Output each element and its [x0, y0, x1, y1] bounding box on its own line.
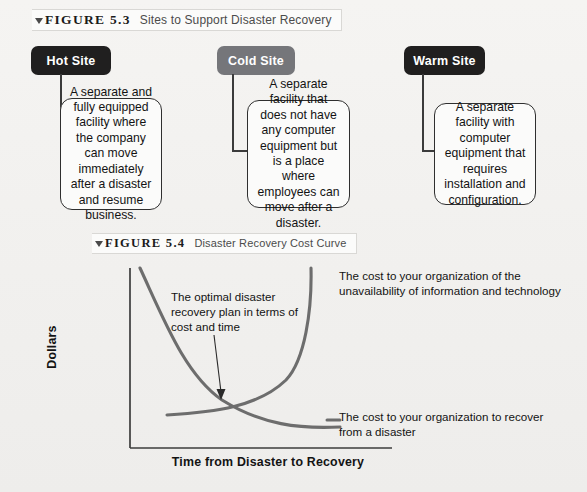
figure-5-3-number: FIGURE 5.3	[45, 12, 131, 28]
site-description-warm: A separate facility with computer equipm…	[434, 103, 536, 205]
annotation-unavailability-cost: The cost to your organization of the una…	[339, 268, 583, 298]
site-tab-hot-label: Hot Site	[47, 54, 96, 68]
figure-5-4-caption: FIGURE 5.4 Disaster Recovery Cost Curve	[92, 233, 357, 254]
disaster-recovery-cost-chart: The optimal disaster recovery plan in te…	[0, 252, 587, 492]
figure-5-3-caption: FIGURE 5.3 Sites to Support Disaster Rec…	[32, 9, 342, 31]
x-axis-label: Time from Disaster to Recovery	[130, 455, 406, 469]
annotation-recovery-cost: The cost to your organization to recover…	[339, 409, 569, 439]
annotation-optimal-plan: The optimal disaster recovery plan in te…	[171, 289, 321, 334]
caption-triangle-icon	[35, 18, 43, 24]
figure-5-4-title: Disaster Recovery Cost Curve	[194, 237, 346, 249]
figure-page: FIGURE 5.3 Sites to Support Disaster Rec…	[0, 0, 587, 492]
annotation-arrow-line	[214, 335, 221, 392]
site-description-warm-text: A separate facility with computer equipm…	[444, 100, 526, 208]
connector-cold-vertical	[232, 74, 234, 151]
site-description-cold-text: A separate facility that does not have a…	[257, 77, 340, 231]
site-tab-warm: Warm Site	[404, 46, 485, 75]
site-tab-cold-label: Cold Site	[228, 54, 284, 68]
site-description-hot-text: A separate and fully equipped facility w…	[70, 85, 152, 224]
site-tab-cold: Cold Site	[217, 46, 295, 75]
site-tab-warm-label: Warm Site	[413, 54, 475, 68]
figure-5-4-number: FIGURE 5.4	[105, 236, 185, 251]
figure-5-3-title: Sites to Support Disaster Recovery	[140, 13, 332, 27]
site-description-hot: A separate and fully equipped facility w…	[60, 98, 162, 210]
y-axis-label: Dollars	[45, 288, 59, 406]
site-tab-hot: Hot Site	[31, 46, 111, 75]
connector-warm-vertical	[422, 74, 424, 151]
caption-triangle-icon	[95, 241, 103, 247]
site-description-cold: A separate facility that does not have a…	[247, 100, 350, 208]
